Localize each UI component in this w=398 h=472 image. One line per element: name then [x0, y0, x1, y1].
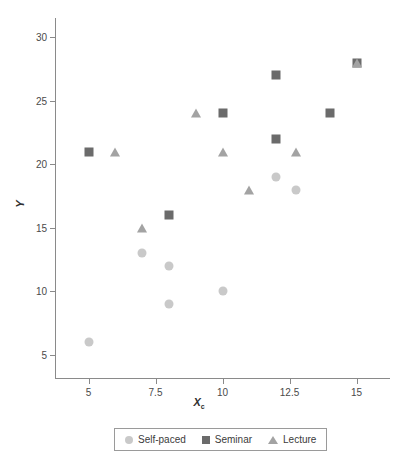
data-point-seminar [164, 211, 173, 220]
y-tick-mark [50, 101, 55, 102]
data-point-self-paced [164, 300, 173, 309]
x-tick-mark [89, 379, 90, 384]
data-point-self-paced [84, 338, 93, 347]
x-tick-mark [156, 379, 157, 384]
x-tick-mark [290, 379, 291, 384]
data-point-seminar [272, 134, 281, 143]
y-tick-mark [50, 291, 55, 292]
legend-entry-lecture[interactable]: Lecture [268, 434, 316, 445]
chart-legend: Self-pacedSeminarLecture [114, 428, 327, 451]
data-point-self-paced [138, 249, 147, 258]
data-point-lecture [110, 147, 120, 156]
data-point-lecture [218, 147, 228, 156]
y-tick-label: 15 [36, 222, 47, 233]
legend-entry-self-paced[interactable]: Self-paced [125, 434, 186, 445]
x-axis-title: Xc [0, 396, 398, 410]
data-point-self-paced [218, 287, 227, 296]
y-tick-mark [50, 228, 55, 229]
data-point-lecture [244, 185, 254, 194]
legend-label: Self-paced [138, 434, 186, 445]
data-point-lecture [352, 58, 362, 67]
data-point-lecture [291, 147, 301, 156]
data-point-self-paced [292, 185, 301, 194]
data-point-seminar [218, 109, 227, 118]
data-point-self-paced [164, 262, 173, 271]
x-axis-title-subscript: c [201, 403, 205, 410]
scatter-plot-figure: 51015202530 57.51012.515 Y Xc Self-paced… [0, 0, 398, 472]
y-tick-label: 25 [36, 95, 47, 106]
y-tick-mark [50, 355, 55, 356]
data-point-seminar [84, 147, 93, 156]
plot-area: 51015202530 57.51012.515 [55, 18, 390, 378]
data-point-lecture [137, 223, 147, 232]
y-tick-mark [50, 164, 55, 165]
data-point-lecture [191, 109, 201, 118]
legend-label: Lecture [283, 434, 316, 445]
data-point-self-paced [272, 173, 281, 182]
y-tick-label: 5 [41, 350, 47, 361]
y-axis-line [55, 18, 56, 378]
y-tick-mark [50, 37, 55, 38]
data-point-seminar [272, 71, 281, 80]
data-point-seminar [325, 109, 334, 118]
x-tick-mark [357, 379, 358, 384]
legend-label: Seminar [215, 434, 252, 445]
legend-triangle-icon [268, 436, 278, 444]
legend-square-icon [202, 436, 210, 444]
x-tick-mark [223, 379, 224, 384]
x-axis-title-text: X [193, 396, 200, 408]
y-tick-label: 30 [36, 32, 47, 43]
legend-circle-icon [125, 436, 133, 444]
y-tick-label: 10 [36, 286, 47, 297]
legend-entry-seminar[interactable]: Seminar [202, 434, 252, 445]
y-tick-label: 20 [36, 159, 47, 170]
y-axis-title: Y [14, 200, 26, 207]
